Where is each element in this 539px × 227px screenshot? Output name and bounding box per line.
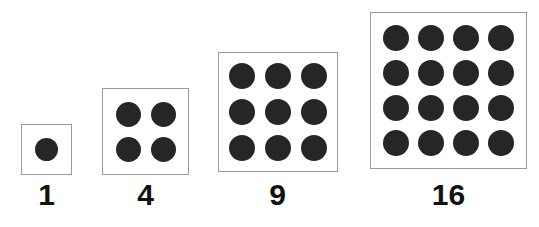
dot [229, 135, 255, 161]
dot [151, 137, 176, 162]
dot [453, 130, 479, 156]
dot [383, 25, 409, 51]
dot [301, 99, 327, 125]
dot [35, 138, 58, 161]
dot [229, 63, 255, 89]
dot [265, 135, 291, 161]
square-number-label: 4 [110, 180, 181, 210]
dot [265, 99, 291, 125]
dot-array-box [21, 124, 72, 175]
dot [418, 25, 444, 51]
square-number-label: 1 [11, 180, 82, 210]
dot [453, 60, 479, 86]
dot [383, 130, 409, 156]
dot [453, 95, 479, 121]
dot [151, 102, 176, 127]
dot [418, 95, 444, 121]
dot [488, 25, 514, 51]
dot [383, 95, 409, 121]
dot-array-box [370, 12, 527, 169]
dot-array-box [218, 52, 338, 172]
dot [488, 60, 514, 86]
square-number-label: 9 [242, 180, 313, 210]
dot [418, 60, 444, 86]
dot [488, 130, 514, 156]
dot [116, 137, 141, 162]
dot [301, 63, 327, 89]
square-numbers-diagram: 14916 [0, 0, 539, 227]
square-number-label: 16 [413, 180, 484, 210]
dot-array-box [102, 88, 189, 175]
dot [453, 25, 479, 51]
dot [116, 102, 141, 127]
dot [383, 60, 409, 86]
dot [265, 63, 291, 89]
dot [229, 99, 255, 125]
dot [301, 135, 327, 161]
dot [418, 130, 444, 156]
dot [488, 95, 514, 121]
